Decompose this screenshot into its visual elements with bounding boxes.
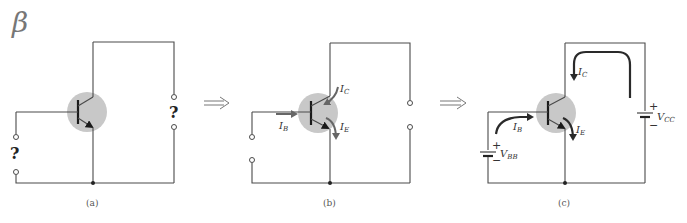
transition-arrow-1 <box>204 97 229 109</box>
transistor-circuit-diagram: β ? ? (a) <box>0 0 687 223</box>
collector-current-label: IC <box>339 83 350 96</box>
junction-dot <box>563 181 567 185</box>
input-terminal-top <box>250 135 255 140</box>
input-terminal-bottom <box>14 170 19 175</box>
vbb-label: VBB <box>500 148 518 161</box>
bottom-wire <box>252 163 410 183</box>
unknown-input-label: ? <box>10 144 19 163</box>
panel-c: + − VCC + − VBB IB IC IE (c) <box>480 43 676 208</box>
emitter-current-label: IE <box>575 124 585 137</box>
output-terminal-bottom <box>172 125 177 130</box>
base-current-label: IB <box>512 121 522 134</box>
output-terminal-top <box>172 95 177 100</box>
output-terminal-top <box>408 101 413 106</box>
beta-symbol: β <box>11 6 28 39</box>
vcc-label: VCC <box>657 111 676 124</box>
transistor-highlight <box>536 93 576 133</box>
unknown-output-label: ? <box>169 103 178 122</box>
collector-current-label: IC <box>577 66 588 79</box>
input-terminal-bottom <box>250 158 255 163</box>
panel-b: IB IC IE (b) <box>250 43 413 208</box>
bottom-wire <box>16 175 174 183</box>
caption-b: (b) <box>323 198 336 208</box>
top-wire <box>565 43 645 111</box>
top-wire <box>93 42 174 94</box>
emitter-current-label: IE <box>339 121 349 134</box>
panel-a: ? ? (a) <box>10 42 178 208</box>
junction-dot <box>91 181 95 185</box>
transition-arrow-2 <box>440 97 466 109</box>
output-terminal-bottom <box>408 125 413 130</box>
caption-a: (a) <box>86 198 98 208</box>
junction-dot <box>328 181 332 185</box>
vcc-battery-symbol <box>637 113 653 117</box>
base-current-label: IB <box>278 120 288 133</box>
caption-c: (c) <box>558 198 570 208</box>
input-terminal-top <box>14 135 19 140</box>
